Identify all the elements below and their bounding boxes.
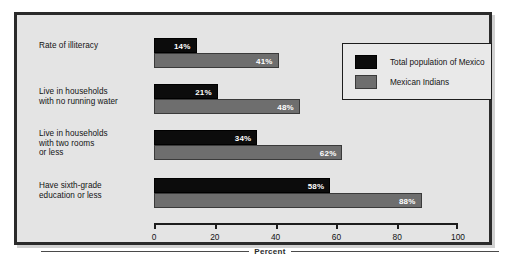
bar-total-population-no-running-water: 21% xyxy=(154,84,218,99)
category-label-sixth-grade: Have sixth-grade education or less xyxy=(39,181,151,200)
category-label-line: Rate of illiteracy xyxy=(39,41,151,51)
x-axis-tick-label: 60 xyxy=(332,232,341,242)
bar-value-label: 62% xyxy=(320,148,337,157)
x-axis-caption-text: Percent xyxy=(254,247,285,256)
x-axis-line xyxy=(154,223,458,225)
x-axis-tick-label: 20 xyxy=(210,232,219,242)
x-axis-tick xyxy=(336,223,338,229)
legend-label: Mexican Indians xyxy=(390,78,449,87)
category-label-line: Live in households xyxy=(39,129,151,139)
category-label-line: Have sixth-grade xyxy=(39,181,151,191)
category-label-line: with no running water xyxy=(39,97,151,107)
x-axis-tick-label: 100 xyxy=(451,232,465,242)
x-axis-caption: Percent xyxy=(41,246,499,256)
bar-mexican-indians-no-running-water: 48% xyxy=(154,99,300,114)
category-label-illiteracy: Rate of illiteracy xyxy=(39,41,151,51)
legend-entry-mexican-indians: Mexican Indians xyxy=(355,73,491,91)
bar-mexican-indians-illiteracy: 41% xyxy=(154,53,279,68)
chart-legend: Total population of Mexico Mexican India… xyxy=(342,43,492,100)
caption-rule-left xyxy=(41,251,249,252)
chart-frame: Rate of illiteracy Live in households wi… xyxy=(14,12,492,245)
x-axis: 020406080100 xyxy=(154,223,458,224)
x-axis-tick xyxy=(154,223,156,229)
chart-figure: Rate of illiteracy Live in households wi… xyxy=(0,0,507,258)
x-axis-tick-label: 40 xyxy=(271,232,280,242)
x-axis-tick-label: 0 xyxy=(152,232,157,242)
category-label-no-running-water: Live in households with no running water xyxy=(39,87,151,106)
legend-entry-total-population: Total population of Mexico xyxy=(355,53,491,71)
caption-rule-right xyxy=(291,251,499,252)
bar-total-population-sixth-grade: 58% xyxy=(154,178,330,193)
legend-swatch-icon xyxy=(355,55,377,69)
x-axis-tick xyxy=(456,223,458,229)
bar-value-label: 34% xyxy=(235,133,252,142)
category-label-line: with two rooms xyxy=(39,139,151,149)
bar-value-label: 41% xyxy=(256,56,273,65)
x-axis-tick xyxy=(276,223,278,229)
bar-value-label: 14% xyxy=(174,41,191,50)
category-label-line: or less xyxy=(39,148,151,158)
bar-mexican-indians-sixth-grade: 88% xyxy=(154,193,422,208)
legend-label: Total population of Mexico xyxy=(390,58,485,67)
bar-value-label: 58% xyxy=(308,181,325,190)
bar-total-population-illiteracy: 14% xyxy=(154,38,197,53)
x-axis-tick-label: 80 xyxy=(393,232,402,242)
category-label-line: Live in households xyxy=(39,87,151,97)
bar-total-population-two-rooms: 34% xyxy=(154,130,257,145)
bar-mexican-indians-two-rooms: 62% xyxy=(154,145,342,160)
bar-value-label: 21% xyxy=(195,87,212,96)
x-axis-tick xyxy=(397,223,399,229)
bar-value-label: 48% xyxy=(277,102,294,111)
x-axis-tick xyxy=(215,223,217,229)
category-label-two-rooms: Live in households with two rooms or les… xyxy=(39,129,151,158)
category-label-line: education or less xyxy=(39,191,151,201)
bar-value-label: 88% xyxy=(399,196,416,205)
legend-swatch-icon xyxy=(355,75,377,89)
